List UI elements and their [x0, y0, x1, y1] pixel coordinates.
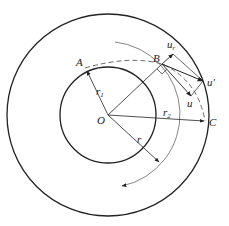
impeller-diagram: A B C O r1 r2 r ur u' u — [0, 0, 229, 226]
label-O: O — [97, 114, 105, 126]
diagram-canvas: A B C O r1 r2 r ur u' u — [0, 0, 229, 226]
label-A: A — [75, 56, 83, 68]
vector-ur — [162, 54, 173, 64]
label-r: r — [137, 133, 142, 145]
radius-OB — [108, 64, 162, 115]
label-r2: r2 — [163, 106, 171, 120]
label-C: C — [209, 116, 217, 128]
label-u: u — [187, 97, 193, 109]
label-r1: r1 — [96, 85, 104, 99]
label-ur: ur — [167, 38, 176, 52]
label-B: B — [153, 52, 160, 64]
label-u-prime: u' — [207, 76, 216, 88]
